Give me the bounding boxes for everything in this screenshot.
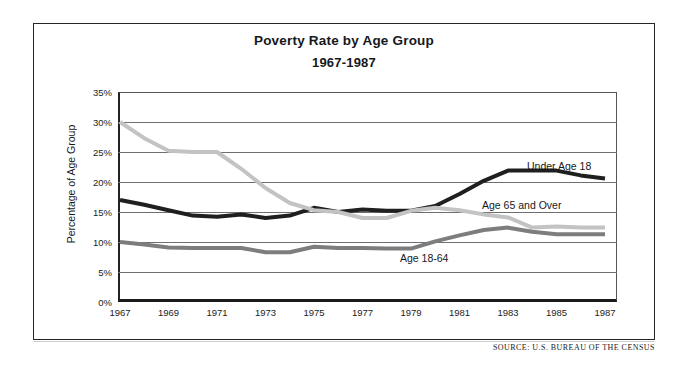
source-note: SOURCE: U.S. BUREAU OF THE CENSUS — [0, 343, 655, 352]
y-axis-title: Percentage of Age Group — [65, 94, 77, 274]
series-line — [120, 122, 605, 228]
y-tick-label: 35% — [93, 87, 112, 98]
x-tick-label: 1985 — [546, 307, 567, 318]
series-label: Under Age 18 — [527, 160, 591, 172]
x-tick-label: 1987 — [594, 307, 615, 318]
series-line — [120, 228, 605, 253]
y-tick-label: 25% — [93, 147, 112, 158]
chart-subtitle: 1967-1987 — [33, 55, 655, 70]
y-tick-label: 5% — [98, 267, 112, 278]
x-tick-label: 1977 — [352, 307, 373, 318]
x-tick-label: 1967 — [109, 307, 130, 318]
y-tick-label: 15% — [93, 207, 112, 218]
x-tick-label: 1971 — [206, 307, 227, 318]
y-tick-label: 30% — [93, 117, 112, 128]
y-tick-label: 20% — [93, 177, 112, 188]
y-tick-label: 0% — [98, 297, 112, 308]
chart-title: Poverty Rate by Age Group — [33, 33, 655, 48]
source-divider — [33, 341, 655, 342]
x-tick-label: 1983 — [497, 307, 518, 318]
y-axis-title-host: Percentage of Age Group — [50, 92, 72, 302]
plot-area — [118, 92, 617, 302]
x-tick-label: 1969 — [158, 307, 179, 318]
x-tick-label: 1981 — [449, 307, 470, 318]
x-tick-label: 1979 — [400, 307, 421, 318]
y-tick-label: 10% — [93, 237, 112, 248]
series-label: Age 65 and Over — [482, 199, 561, 211]
series-label: Age 18-64 — [400, 252, 448, 264]
x-tick-label: 1973 — [255, 307, 276, 318]
chart-figure: Poverty Rate by Age Group 1967-1987 35%3… — [0, 0, 688, 365]
series-lines — [118, 92, 617, 302]
x-tick-label: 1975 — [303, 307, 324, 318]
